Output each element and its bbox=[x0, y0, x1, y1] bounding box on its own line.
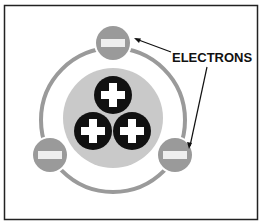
electron bbox=[31, 136, 69, 174]
minus-icon bbox=[101, 39, 125, 47]
proton bbox=[74, 112, 112, 150]
electron bbox=[156, 136, 194, 174]
minus-icon bbox=[38, 151, 62, 159]
atom-diagram: ELECTRONS bbox=[0, 0, 262, 224]
minus-icon bbox=[163, 151, 187, 159]
proton bbox=[94, 76, 132, 114]
proton bbox=[113, 112, 151, 150]
electrons-label: ELECTRONS bbox=[172, 50, 253, 65]
electron bbox=[94, 24, 132, 62]
